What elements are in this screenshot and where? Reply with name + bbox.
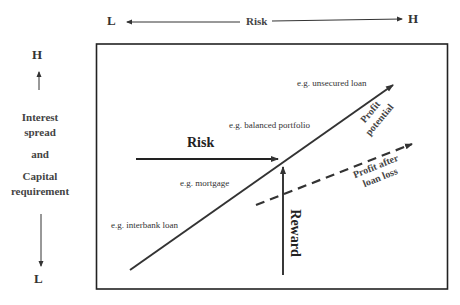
left-axis-low-label: L [34,272,43,285]
reward-arrow-label: Reward [288,209,302,256]
example-interbank-loan: e.g. interbank loan [111,221,178,230]
top-axis-low-label: L [107,14,116,27]
left-axis-title-line-4: Capital [0,169,80,184]
left-axis-title-line-1: Interest [0,110,80,125]
risk-arrow-label: Risk [187,136,214,150]
left-axis-title-line-5: requirement [0,184,80,199]
top-axis-title: Risk [246,16,267,27]
example-unsecured-loan: e.g. unsecured loan [297,79,366,88]
example-balanced-portfolio: e.g. balanced portfolio [229,121,310,130]
left-axis-title-line-3: and [0,147,80,162]
top-axis-right-arrow [272,19,402,21]
left-axis-high-label: H [32,48,42,61]
top-axis-high-label: H [408,12,418,25]
example-mortgage: e.g. mortgage [180,179,229,188]
left-axis-title-line-2: spread [0,125,80,140]
